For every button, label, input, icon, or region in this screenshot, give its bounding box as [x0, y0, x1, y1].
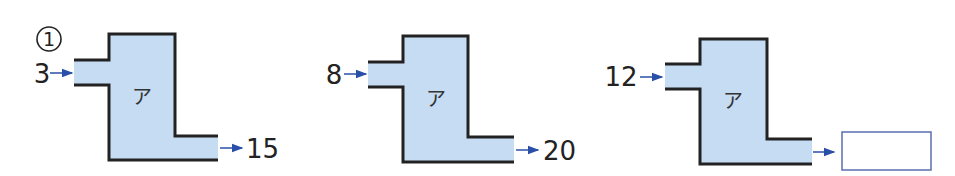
- machine-1: ア 3 15: [34, 34, 279, 164]
- problem-number: 1: [37, 27, 61, 51]
- machine-label: ア: [426, 87, 446, 111]
- input-value: 3: [34, 59, 51, 89]
- function-machine-diagram: 1 ア 3 15 ア 8 20 ア 12: [0, 0, 955, 176]
- machine-label: ア: [723, 89, 743, 113]
- svg-text:1: 1: [43, 28, 55, 50]
- output-value: 15: [246, 134, 279, 164]
- input-value: 8: [326, 60, 343, 90]
- machine-2: ア 8 20: [326, 36, 576, 166]
- answer-box[interactable]: [842, 132, 931, 170]
- input-value: 12: [604, 62, 637, 92]
- machine-3: ア 12: [604, 39, 931, 170]
- output-value: 20: [543, 136, 576, 166]
- machine-label: ア: [132, 85, 152, 109]
